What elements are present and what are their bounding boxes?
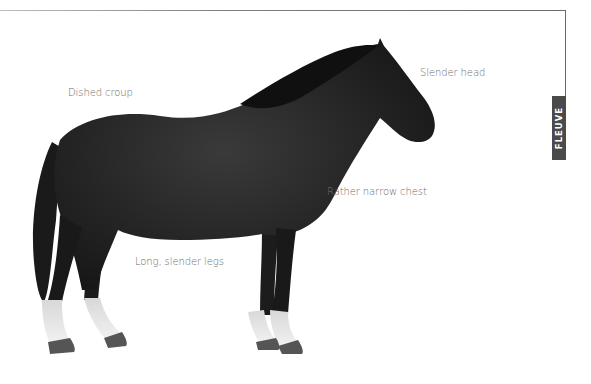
annotation-dished-croup: Dished croup	[68, 87, 133, 98]
horse-illustration	[0, 0, 591, 384]
annotation-slender-legs: Long, slender legs	[135, 256, 224, 267]
horse-body	[54, 38, 435, 290]
sock-hind-far	[84, 298, 122, 340]
annotation-slender-head: Slender head	[420, 67, 485, 78]
sock-hind-near	[42, 300, 70, 344]
annotation-narrow-chest: Rather narrow chest	[327, 186, 427, 197]
